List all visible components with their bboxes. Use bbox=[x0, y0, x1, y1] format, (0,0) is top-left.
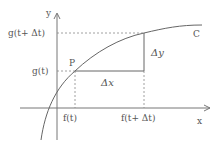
x-tick-f-t: f(t) bbox=[63, 113, 77, 123]
diagram-canvas: y x C P g(t+ Δt) g(t) f(t) f(t+ Δt) Δx Δ… bbox=[0, 0, 224, 144]
curve-label: C bbox=[193, 29, 200, 39]
y-tick-g-t: g(t) bbox=[32, 66, 48, 76]
delta-x-label: Δx bbox=[100, 77, 114, 88]
x-axis-label: x bbox=[197, 116, 202, 126]
x-tick-f-t-dt: f(t+ Δt) bbox=[121, 113, 156, 123]
y-tick-g-t-dt: g(t+ Δt) bbox=[8, 28, 45, 38]
point-p-label: P bbox=[69, 58, 75, 68]
y-axis-label: y bbox=[45, 8, 52, 18]
delta-y-label: Δy bbox=[150, 47, 164, 58]
